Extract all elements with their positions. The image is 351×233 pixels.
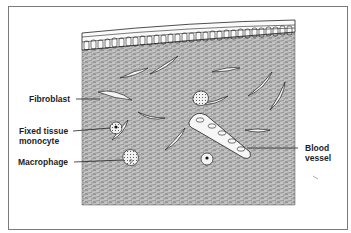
label-macrophage: Macrophage (18, 157, 68, 167)
label-fixed-tissue-monocyte-2: monocyte (19, 136, 59, 146)
tissue-diagram (0, 0, 351, 233)
macrophage-cell-upper (193, 91, 209, 106)
label-blood-vessel-1: Blood (305, 143, 329, 153)
stray-mark (313, 176, 318, 179)
label-fibroblast: Fibroblast (29, 94, 70, 104)
label-blood-vessel-2: vessel (305, 153, 331, 163)
macrophage-cell (123, 150, 139, 166)
monocyte-cell-lower (201, 153, 213, 165)
label-fixed-tissue-monocyte-1: Fixed tissue (19, 126, 68, 136)
connective-tissue (82, 32, 295, 205)
fixed-tissue-monocyte-cell (110, 122, 122, 134)
